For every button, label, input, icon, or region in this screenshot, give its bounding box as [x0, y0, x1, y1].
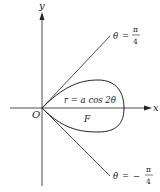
svg-text:4: 4: [133, 37, 138, 46]
origin-label: O: [32, 109, 40, 120]
svg-text:θ: θ: [113, 171, 118, 181]
svg-text:−: −: [133, 171, 140, 181]
region-label: F: [83, 114, 91, 124]
y-axis-label: y: [38, 0, 45, 11]
curve-equation: r = a cos 2θ: [64, 95, 116, 105]
svg-text:π: π: [133, 25, 138, 34]
x-axis-arrow-icon: [144, 106, 152, 111]
y-axis: [40, 12, 45, 186]
rose-petal-curve: [42, 80, 124, 132]
svg-text:=: =: [122, 171, 129, 181]
lower-ray-label: θ = − π 4: [113, 165, 153, 186]
svg-text:=: =: [122, 31, 129, 41]
svg-text:4: 4: [146, 177, 151, 186]
y-axis-arrow-icon: [40, 12, 45, 20]
ray-lower: [42, 108, 110, 176]
svg-text:θ: θ: [113, 31, 118, 41]
svg-text:π: π: [146, 165, 151, 174]
x-axis-label: x: [153, 102, 159, 113]
polar-diagram: y x O r = a cos 2θ F θ = π 4 θ = − π 4: [0, 0, 160, 192]
upper-ray-label: θ = π 4: [113, 25, 140, 46]
